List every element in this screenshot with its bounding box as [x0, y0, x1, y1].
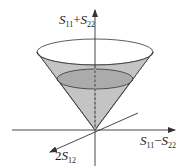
cone-diagram: S11+S22 S11−S22 2S12 [0, 0, 189, 167]
horizontal-axis-label: S11−S22 [140, 134, 176, 150]
diagonal-axis-label: 2S12 [55, 149, 76, 165]
vertical-axis-label: S11+S22 [59, 13, 95, 29]
